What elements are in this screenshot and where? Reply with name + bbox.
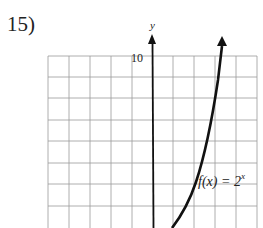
y-axis-label: y [149, 19, 155, 31]
function-label: f(x) = 2x [198, 171, 245, 190]
y-axis [148, 34, 156, 228]
function-label-exponent: x [240, 171, 245, 181]
y-tick-10: 10 [131, 51, 143, 65]
curve-arrow-icon [217, 36, 227, 46]
curve-f [172, 46, 222, 228]
function-label-base: f(x) = 2 [198, 174, 241, 190]
y-axis-arrow-icon [148, 34, 156, 44]
graph: y 10 f(x) = 2x [0, 0, 263, 228]
